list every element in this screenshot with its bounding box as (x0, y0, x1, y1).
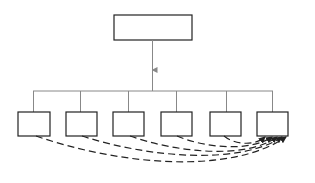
child-box-4 (161, 112, 192, 136)
dashed-link-1-to-6 (36, 136, 286, 162)
child-boxes (18, 112, 288, 136)
child-box-6 (257, 112, 288, 136)
root-box (114, 15, 192, 40)
dashed-links (36, 136, 286, 162)
child-box-1 (18, 112, 50, 136)
child-box-2 (66, 112, 97, 136)
hierarchy-diagram (0, 0, 315, 183)
child-drops (34, 91, 273, 112)
dashed-link-5-to-6 (224, 136, 265, 143)
child-box-5 (210, 112, 241, 136)
dashed-link-2-to-6 (82, 136, 282, 155)
child-box-3 (113, 112, 144, 136)
